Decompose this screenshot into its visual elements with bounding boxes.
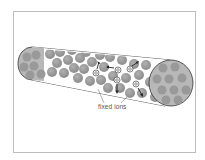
fixed-ions-label: fixed ions [98,103,126,110]
right-end-cap [149,60,193,106]
pore-diagram [0,0,205,160]
left-end-cap [18,47,45,81]
